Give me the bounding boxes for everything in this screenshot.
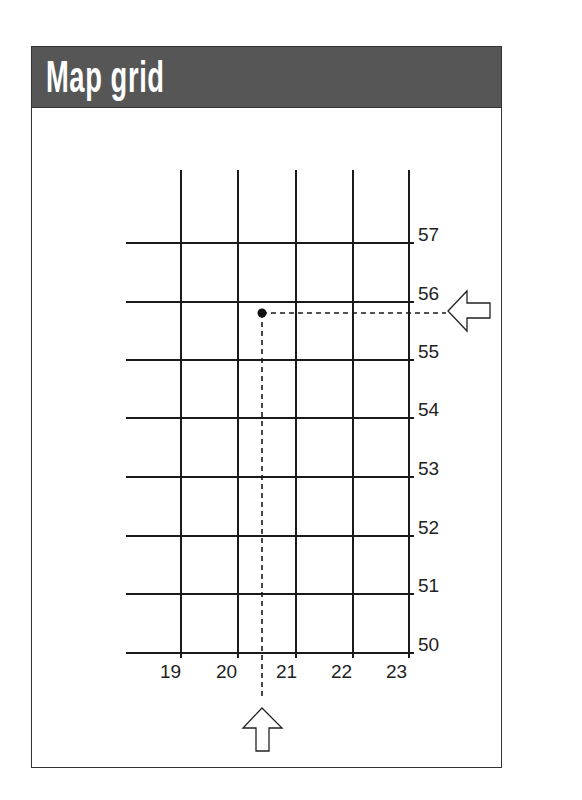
left-pointing-arrow-icon <box>448 291 490 331</box>
northing-labels: 57 56 55 54 53 52 51 50 <box>418 224 440 655</box>
easting-label: 23 <box>386 661 407 682</box>
easting-label: 21 <box>276 661 297 682</box>
easting-label: 19 <box>160 661 181 682</box>
map-grid-diagram: 57 56 55 54 53 52 51 50 19 20 21 22 23 <box>0 0 582 800</box>
northing-label: 57 <box>418 224 439 245</box>
northing-label: 50 <box>418 634 439 655</box>
easting-label: 22 <box>331 661 352 682</box>
northing-label: 51 <box>418 575 439 596</box>
easting-label: 20 <box>216 661 237 682</box>
northing-label: 56 <box>418 283 439 304</box>
northing-label: 54 <box>418 399 440 420</box>
horizontal-grid-lines <box>126 243 414 653</box>
northing-label: 55 <box>418 341 439 362</box>
northing-label: 52 <box>418 517 439 538</box>
easting-labels: 19 20 21 22 23 <box>160 661 407 682</box>
reference-point-dot <box>258 309 267 318</box>
up-pointing-arrow-icon <box>243 708 282 751</box>
northing-label: 53 <box>418 458 439 479</box>
